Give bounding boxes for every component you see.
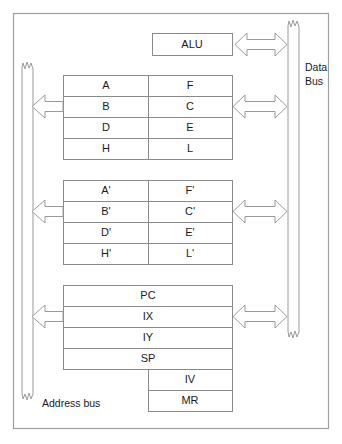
register-cell: F' [186, 184, 195, 196]
special-register-cell: PC [140, 289, 155, 301]
special-register-cell: IX [143, 310, 154, 322]
register-cell: D' [101, 226, 111, 238]
register-cell: E' [185, 226, 194, 238]
special-register-cell: SP [141, 352, 156, 364]
register-cell: H [102, 142, 110, 154]
register-cell: L [187, 142, 193, 154]
register-cell: A' [101, 184, 110, 196]
register-cell: E [186, 121, 193, 133]
diagram-canvas: Address bus Data Bus ALU A F B C [0, 0, 342, 444]
data-bus-label-line1: Data [305, 61, 327, 73]
data-bus-band [288, 20, 299, 338]
register-cell: D [102, 121, 110, 133]
address-bus-band [22, 62, 33, 400]
alu-label: ALU [181, 38, 202, 50]
special-register-cell: IV [185, 373, 196, 385]
alu-block: ALU [153, 34, 233, 56]
register-cell: F [187, 79, 194, 91]
register-cell: B' [101, 205, 110, 217]
cpu-register-diagram: Address bus Data Bus ALU A F B C [0, 0, 342, 444]
register-cell: C' [185, 205, 195, 217]
register-cell: A [102, 79, 110, 91]
register-cell: H' [101, 247, 111, 259]
main-register-set: A F B C D E H L [64, 76, 233, 160]
address-bus-label: Address bus [42, 397, 100, 409]
data-bus-label-line2: Bus [305, 75, 323, 87]
special-register-cell: MR [181, 394, 198, 406]
register-cell: B [102, 100, 109, 112]
special-register-cell: IY [143, 331, 154, 343]
register-cell: C [186, 100, 194, 112]
alternate-register-set: A' F' B' C' D' E' H' L' [64, 181, 233, 265]
register-cell: L' [186, 247, 194, 259]
